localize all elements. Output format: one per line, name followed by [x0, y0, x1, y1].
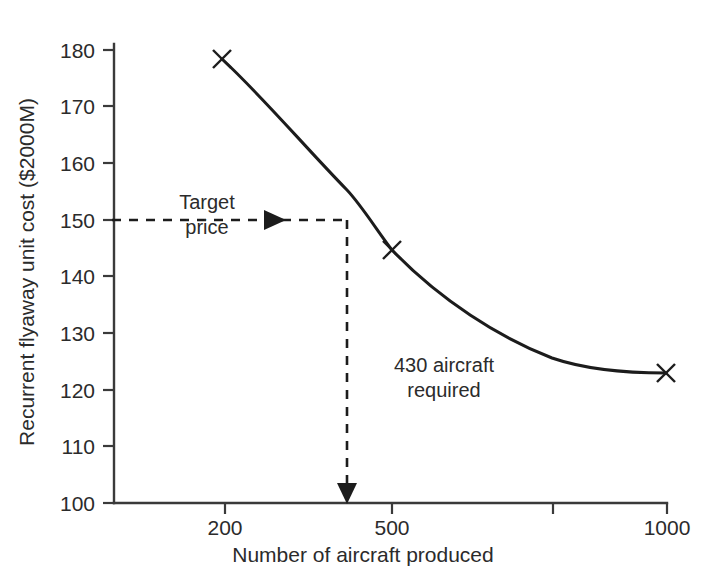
x-axis-title: Number of aircraft produced [232, 543, 493, 566]
y-tick-label-110: 110 [62, 435, 95, 458]
data-point-marker-500 [383, 241, 401, 259]
data-series-group [213, 50, 675, 382]
target-price-arrow-icon [264, 210, 286, 230]
y-tick-label-100: 100 [60, 492, 95, 515]
y-tick-label-120: 120 [60, 379, 95, 402]
required-quantity-arrow-icon [337, 483, 357, 504]
axis-group [114, 44, 667, 503]
chart-canvas: 180 170 160 150 140 130 120 110 100 200 … [0, 0, 721, 581]
y-tick-label-180: 180 [60, 39, 95, 62]
required-quantity-label-line1: 430 aircraft [394, 354, 494, 376]
y-tick-label-160: 160 [60, 152, 95, 175]
x-axis-ticks: 200 500 1000 [207, 503, 690, 539]
target-price-label-line2: price [185, 216, 228, 238]
required-quantity-guide: 430 aircraft required [337, 220, 494, 504]
y-axis-title: Recurrent flyaway unit cost ($2000M) [15, 98, 38, 446]
x-tick-label-500: 500 [374, 516, 409, 539]
data-point-marker-200 [213, 50, 231, 68]
y-tick-label-150: 150 [60, 209, 95, 232]
y-tick-label-170: 170 [60, 95, 95, 118]
target-price-label-line1: Target [179, 191, 235, 213]
target-price-guide: Target price [112, 191, 347, 238]
y-tick-label-140: 140 [60, 265, 95, 288]
x-tick-label-1000: 1000 [644, 516, 691, 539]
cost-curve [222, 59, 666, 373]
x-tick-label-200: 200 [207, 516, 242, 539]
y-axis-ticks: 180 170 160 150 140 130 120 110 100 [60, 39, 114, 515]
required-quantity-label-line2: required [407, 379, 480, 401]
chart-figure: 180 170 160 150 140 130 120 110 100 200 … [0, 0, 721, 581]
y-tick-label-130: 130 [60, 322, 95, 345]
